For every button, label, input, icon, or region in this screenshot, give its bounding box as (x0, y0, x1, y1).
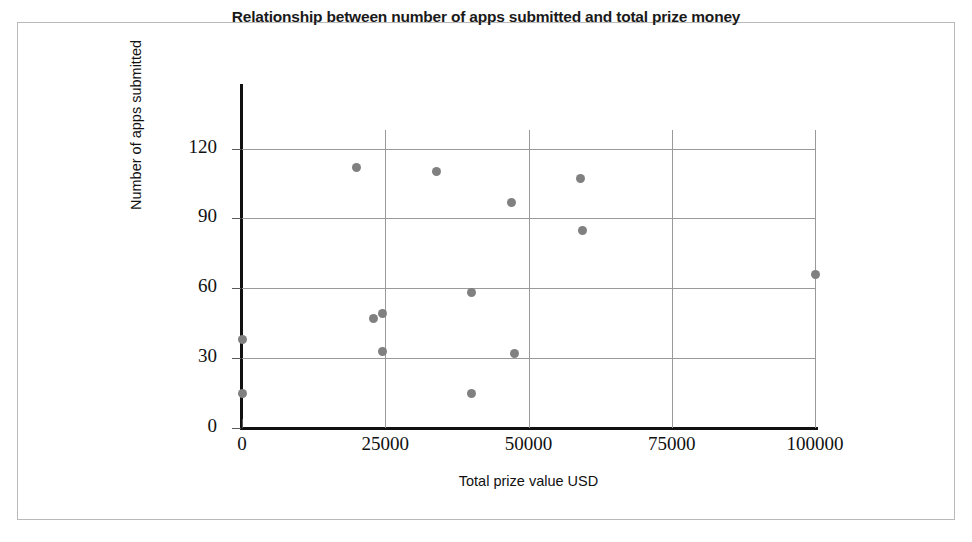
gridline-vertical (385, 130, 386, 428)
y-tick-mark (232, 428, 241, 429)
y-axis-title: Number of apps submitted (128, 0, 144, 210)
y-tick-mark (232, 288, 241, 289)
y-tick-label: 0 (157, 415, 217, 437)
y-tick-mark (232, 358, 241, 359)
x-tick-label: 75000 (648, 433, 696, 455)
y-tick-mark (232, 218, 241, 219)
scatter-point (238, 335, 247, 344)
scatter-point (578, 226, 587, 235)
scatter-point (507, 198, 516, 207)
y-tick-label: 90 (157, 205, 217, 227)
x-tick-label: 0 (237, 433, 247, 455)
chart-title: Relationship between number of apps subm… (0, 8, 972, 26)
gridline-vertical (529, 130, 530, 428)
x-axis-title: Total prize value USD (242, 473, 815, 489)
plot-area (242, 130, 815, 428)
scatter-point (811, 270, 820, 279)
gridline-vertical (672, 130, 673, 428)
scatter-point (432, 167, 441, 176)
scatter-point (238, 389, 247, 398)
y-tick-label: 120 (157, 136, 217, 158)
y-tick-mark (232, 149, 241, 150)
x-tick-label: 100000 (787, 433, 844, 455)
scatter-point (369, 314, 378, 323)
x-tick-label: 50000 (505, 433, 553, 455)
scatter-point (378, 347, 387, 356)
gridline-vertical (815, 130, 816, 428)
x-tick-label: 25000 (362, 433, 410, 455)
y-tick-label: 30 (157, 345, 217, 367)
y-tick-label: 60 (157, 275, 217, 297)
scatter-point (576, 174, 585, 183)
scatter-point (510, 349, 519, 358)
scatter-point (467, 389, 476, 398)
scatter-point (467, 288, 476, 297)
scatter-point (352, 163, 361, 172)
